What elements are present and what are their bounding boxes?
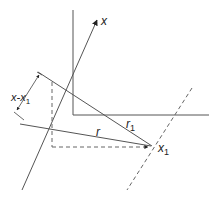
- r1-label: r1: [126, 117, 135, 133]
- x-axis-label: x: [100, 14, 108, 28]
- diagram-canvas: x x-x1 r r1 x1: [0, 0, 221, 199]
- r1-line: [38, 72, 152, 146]
- parallel-line: [127, 88, 192, 190]
- distance-tick-bottom: [14, 112, 24, 120]
- r-label: r: [96, 125, 101, 139]
- point-x1-label: x1: [157, 141, 169, 157]
- x-axis: [22, 20, 97, 190]
